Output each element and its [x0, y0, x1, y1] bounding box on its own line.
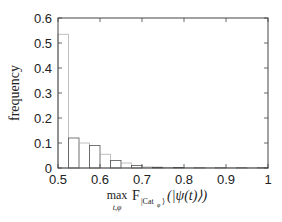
histogram-chart: 00.10.20.30.40.50.6 0.50.60.70.80.91 fre…	[0, 0, 282, 222]
x-tick-label: 1	[264, 172, 271, 187]
y-tick-label: 0.4	[34, 61, 52, 76]
histogram-bar	[100, 154, 111, 168]
svg-text:max: max	[107, 188, 128, 202]
y-tick-label: 0.5	[34, 36, 52, 51]
svg-text:|Cat: |Cat	[141, 197, 154, 206]
histogram-bar	[79, 143, 90, 168]
x-axis-ticks: 0.50.60.70.80.91	[49, 18, 272, 187]
x-tick-label: 0.8	[175, 172, 193, 187]
svg-text:F: F	[132, 188, 140, 203]
histogram-bar	[111, 161, 122, 169]
svg-text:t,φ: t,φ	[113, 203, 122, 212]
y-axis-ticks: 00.10.20.30.40.50.6	[34, 11, 268, 176]
y-tick-label: 0.6	[34, 11, 52, 26]
x-tick-label: 0.6	[91, 172, 109, 187]
y-axis-label: frequency	[7, 65, 22, 121]
y-tick-label: 0.1	[34, 136, 52, 151]
svg-text:⟩: ⟩	[162, 197, 165, 206]
histogram-bar	[58, 34, 69, 168]
histogram-bar	[69, 138, 80, 168]
x-tick-label: 0.5	[49, 172, 67, 187]
histogram-bars	[58, 34, 268, 168]
svg-text:φ: φ	[157, 202, 161, 208]
x-tick-label: 0.7	[133, 172, 151, 187]
y-tick-label: 0.3	[34, 86, 52, 101]
y-tick-label: 0.2	[34, 111, 52, 126]
x-axis-label: max t,φ F |Cat φ ⟩ (|ψ(t)⟩)	[107, 188, 208, 212]
svg-text:(|ψ(t)⟩): (|ψ(t)⟩)	[167, 188, 207, 204]
histogram-bar	[90, 146, 101, 169]
histogram-bar	[121, 163, 132, 168]
x-tick-label: 0.9	[217, 172, 235, 187]
